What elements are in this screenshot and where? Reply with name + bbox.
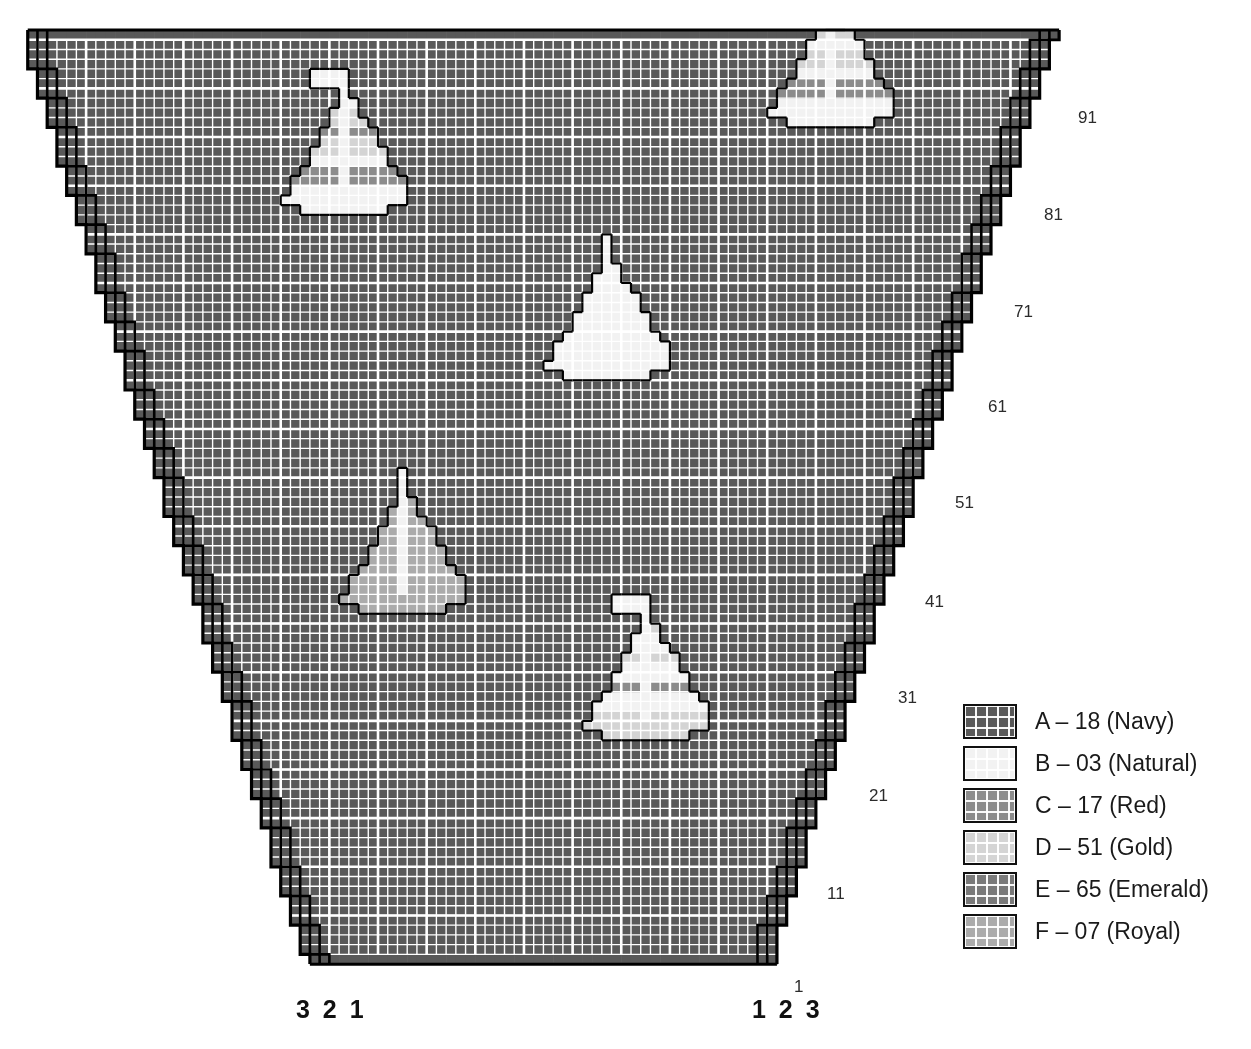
legend-row-a: A – 18 (Navy) xyxy=(963,700,1243,742)
legend-row-c: C – 17 (Red) xyxy=(963,784,1243,826)
row-label-31: 31 xyxy=(898,688,917,708)
legend-label-a: A – 18 (Navy) xyxy=(1035,708,1174,735)
legend-swatch-a xyxy=(963,704,1017,739)
column-label-right: 1 2 3 xyxy=(752,995,823,1024)
legend-row-d: D – 51 (Gold) xyxy=(963,826,1243,868)
row-label-61: 61 xyxy=(988,397,1007,417)
row-label-11: 11 xyxy=(827,884,845,904)
legend-label-e: E – 65 (Emerald) xyxy=(1035,876,1209,903)
row-label-51: 51 xyxy=(955,493,974,513)
legend-swatch-b xyxy=(963,746,1017,781)
legend-swatch-e xyxy=(963,872,1017,907)
legend-swatch-c xyxy=(963,788,1017,823)
legend-label-c: C – 17 (Red) xyxy=(1035,792,1167,819)
legend-swatch-d xyxy=(963,830,1017,865)
row-label-41: 41 xyxy=(925,592,944,612)
row-label-71: 71 xyxy=(1014,302,1033,322)
row-label-91: 91 xyxy=(1078,108,1097,128)
legend-label-b: B – 03 (Natural) xyxy=(1035,750,1197,777)
color-legend: A – 18 (Navy)B – 03 (Natural)C – 17 (Red… xyxy=(963,700,1243,952)
legend-row-f: F – 07 (Royal) xyxy=(963,910,1243,952)
legend-label-f: F – 07 (Royal) xyxy=(1035,918,1181,945)
legend-row-b: B – 03 (Natural) xyxy=(963,742,1243,784)
stitch-chart-canvas xyxy=(0,0,1120,1000)
row-label-21: 21 xyxy=(869,786,888,806)
legend-row-e: E – 65 (Emerald) xyxy=(963,868,1243,910)
row-label-1: 1 xyxy=(794,977,803,997)
legend-swatch-f xyxy=(963,914,1017,949)
stitch-chart xyxy=(0,0,1120,1000)
legend-label-d: D – 51 (Gold) xyxy=(1035,834,1173,861)
column-label-left: 3 2 1 xyxy=(296,995,367,1024)
row-label-81: 81 xyxy=(1044,205,1063,225)
